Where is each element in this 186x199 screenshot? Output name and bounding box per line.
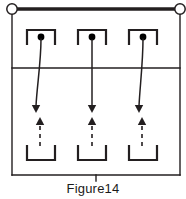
dashed-arrow-1 bbox=[36, 117, 44, 146]
figure-diagram-container: Figure14 bbox=[0, 0, 186, 199]
solid-arrow-3-line bbox=[139, 39, 143, 106]
terminal-left-icon bbox=[7, 4, 17, 14]
dashed-arrow-1-head-icon bbox=[36, 117, 44, 125]
solid-arrow-1-head-icon bbox=[32, 105, 40, 113]
solid-arrow-1 bbox=[32, 39, 41, 113]
dashed-arrows-group bbox=[36, 117, 146, 146]
solid-arrow-3 bbox=[135, 39, 143, 113]
dashed-arrow-3-head-icon bbox=[138, 117, 146, 125]
bottom-bracket-3-icon bbox=[129, 146, 157, 160]
terminal-right-icon bbox=[175, 4, 185, 14]
bottom-bracket-1-icon bbox=[27, 146, 55, 160]
figure-caption: Figure14 bbox=[0, 182, 186, 196]
figure-drawing bbox=[0, 0, 186, 199]
bottom-bracket-2-icon bbox=[78, 146, 106, 160]
solid-arrow-3-head-icon bbox=[135, 105, 143, 113]
dashed-arrow-2 bbox=[88, 117, 96, 146]
solid-arrow-2-head-icon bbox=[88, 105, 96, 113]
solid-arrows-group bbox=[32, 39, 143, 113]
bottom-brackets-group bbox=[27, 146, 157, 160]
dashed-arrow-2-head-icon bbox=[88, 117, 96, 125]
solid-arrow-1-line bbox=[36, 39, 41, 106]
solid-arrow-2 bbox=[88, 40, 96, 113]
dashed-arrow-3 bbox=[138, 117, 146, 146]
